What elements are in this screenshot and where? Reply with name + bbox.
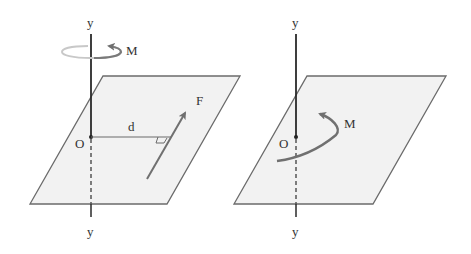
left-moment-label: M bbox=[126, 43, 138, 58]
right-origin-label: O bbox=[279, 136, 288, 151]
left-figure: y y O d F M bbox=[30, 15, 240, 239]
left-axis-bottom-label: y bbox=[87, 224, 94, 239]
left-plane bbox=[30, 76, 240, 204]
left-origin-label: O bbox=[75, 136, 84, 151]
moment-diagram: y y O d F M y y O M bbox=[0, 0, 471, 254]
left-axis-top-label: y bbox=[87, 15, 94, 30]
right-plane bbox=[234, 76, 446, 204]
force-label: F bbox=[196, 93, 203, 108]
right-axis-top-label: y bbox=[292, 15, 299, 30]
right-moment-label: M bbox=[344, 116, 356, 131]
right-figure: y y O M bbox=[234, 15, 446, 239]
right-origin-point bbox=[294, 135, 298, 139]
right-axis-bottom-label: y bbox=[292, 224, 299, 239]
distance-label: d bbox=[128, 119, 135, 134]
